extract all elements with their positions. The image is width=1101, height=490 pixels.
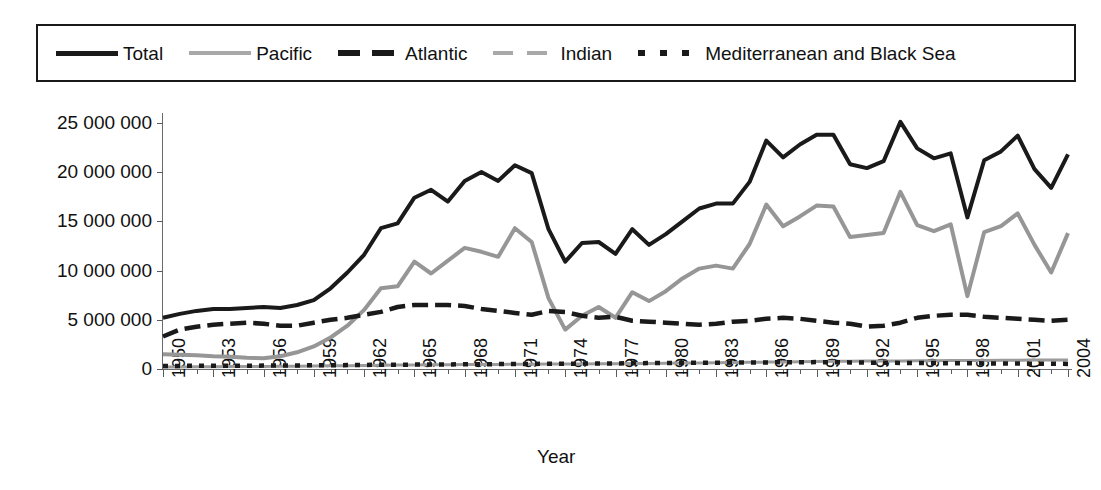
x-tick-mark: [314, 370, 315, 377]
y-tick-label: 10 000 000: [28, 261, 152, 280]
legend-label-pacific: Pacific: [256, 44, 312, 63]
x-tick-mark: [197, 370, 198, 374]
x-tick-mark: [666, 370, 667, 377]
legend-item-indian[interactable]: Indian: [493, 44, 612, 63]
y-tick-label: 5 000 000: [28, 310, 152, 329]
legend-item-atlantic[interactable]: Atlantic: [338, 44, 467, 63]
y-axis-title: Metric tons: [0, 139, 1, 232]
x-tick-label: 1956: [271, 338, 289, 378]
series-line-total: [163, 122, 1068, 318]
chart-figure: Total Pacific Atlantic Indian Mediterran…: [0, 0, 1101, 490]
x-tick-label: 2004: [1075, 338, 1093, 378]
series-line-pacific: [163, 192, 1068, 358]
x-tick-mark: [750, 370, 751, 374]
x-tick-mark: [917, 370, 918, 377]
x-tick-label: 1965: [421, 338, 439, 378]
x-tick-label: 1989: [824, 338, 842, 378]
chart-legend: Total Pacific Atlantic Indian Mediterran…: [36, 24, 1076, 82]
legend-label-mediterranean: Mediterranean and Black Sea: [705, 44, 955, 63]
x-tick-mark: [163, 370, 164, 377]
y-tick-label: 25 000 000: [28, 113, 152, 132]
y-tick-mark: [157, 172, 163, 173]
y-tick-mark: [157, 123, 163, 124]
x-tick-mark: [766, 370, 767, 377]
x-tick-mark: [599, 370, 600, 374]
x-tick-label: 1995: [924, 338, 942, 378]
legend-swatch-pacific: [189, 46, 251, 60]
x-tick-label: 1968: [472, 338, 490, 378]
x-tick-mark: [264, 370, 265, 377]
x-tick-label: 1998: [974, 338, 992, 378]
x-tick-label: 1974: [572, 338, 590, 378]
x-tick-mark: [347, 370, 348, 374]
legend-label-indian: Indian: [560, 44, 612, 63]
x-tick-label: 1950: [170, 338, 188, 378]
x-tick-mark: [548, 370, 549, 374]
x-tick-mark: [364, 370, 365, 377]
x-tick-mark: [1051, 370, 1052, 374]
x-tick-mark: [649, 370, 650, 374]
x-tick-mark: [716, 370, 717, 377]
legend-swatch-mediterranean: [638, 46, 700, 60]
x-tick-mark: [414, 370, 415, 377]
y-axis-line: [162, 113, 163, 370]
x-tick-mark: [247, 370, 248, 374]
x-tick-mark: [515, 370, 516, 377]
y-tick-mark: [157, 221, 163, 222]
x-tick-mark: [498, 370, 499, 374]
y-tick-label: 20 000 000: [28, 162, 152, 181]
x-tick-label: 1977: [623, 338, 641, 378]
y-tick-mark: [157, 271, 163, 272]
legend-swatch-indian: [493, 46, 555, 60]
x-tick-mark: [951, 370, 952, 374]
x-tick-mark: [800, 370, 801, 374]
x-tick-mark: [448, 370, 449, 374]
x-tick-label: 1992: [874, 338, 892, 378]
x-tick-mark: [850, 370, 851, 374]
x-tick-mark: [213, 370, 214, 377]
x-tick-mark: [297, 370, 298, 374]
legend-item-mediterranean-and-black-sea[interactable]: Mediterranean and Black Sea: [638, 44, 955, 63]
legend-item-pacific[interactable]: Pacific: [189, 44, 312, 63]
x-tick-mark: [967, 370, 968, 377]
x-tick-mark: [616, 370, 617, 377]
x-tick-mark: [565, 370, 566, 377]
x-tick-label: 1962: [371, 338, 389, 378]
y-tick-label: 15 000 000: [28, 211, 152, 230]
x-tick-mark: [1018, 370, 1019, 377]
x-tick-mark: [900, 370, 901, 374]
x-tick-label: 1986: [773, 338, 791, 378]
x-tick-label: 1971: [522, 338, 540, 378]
x-tick-mark: [867, 370, 868, 377]
y-axis-tick-labels: 05 000 00010 000 00015 000 00020 000 000…: [24, 0, 152, 490]
x-tick-mark: [817, 370, 818, 377]
x-tick-label: 2001: [1025, 338, 1043, 378]
x-axis-title: Year: [537, 447, 575, 466]
x-tick-mark: [1068, 370, 1069, 377]
x-tick-label: 1983: [723, 338, 741, 378]
x-tick-mark: [465, 370, 466, 377]
x-tick-mark: [398, 370, 399, 374]
x-tick-label: 1953: [220, 338, 238, 378]
y-tick-mark: [157, 320, 163, 321]
x-tick-mark: [1001, 370, 1002, 374]
y-tick-label: 0: [28, 359, 152, 378]
x-tick-label: 1959: [321, 338, 339, 378]
x-tick-label: 1980: [673, 338, 691, 378]
series-line-atlantic: [163, 305, 1068, 337]
legend-swatch-atlantic: [338, 46, 400, 60]
legend-label-atlantic: Atlantic: [405, 44, 467, 63]
x-tick-mark: [699, 370, 700, 374]
